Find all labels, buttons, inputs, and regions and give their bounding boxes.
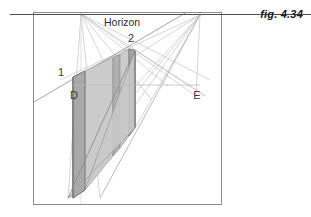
figure-container: Horizon 1 2 D E fig. 4.34 [0, 0, 311, 217]
diagram-background [0, 0, 311, 217]
point-2-label: 2 [128, 32, 134, 44]
point-E-label: E [193, 89, 200, 101]
point-D-label: D [70, 89, 78, 101]
figure-caption: fig. 4.34 [260, 8, 303, 20]
vanishing-point-right-marker [199, 14, 201, 16]
point-1-label: 1 [58, 66, 64, 78]
perspective-diagram: Horizon 1 2 D E [0, 0, 311, 217]
horizon-label: Horizon [104, 16, 140, 28]
vanishing-point-left-marker [80, 14, 82, 16]
